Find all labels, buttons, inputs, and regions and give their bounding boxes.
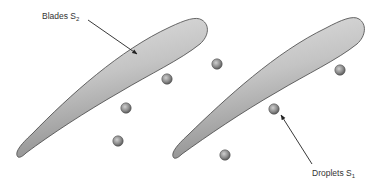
droplets-label-subscript: 1 bbox=[352, 173, 355, 179]
droplets-label-text: Droplets S bbox=[312, 168, 352, 178]
droplet bbox=[121, 103, 131, 113]
droplet bbox=[212, 59, 222, 69]
droplets-arrow bbox=[281, 115, 312, 164]
droplet bbox=[335, 65, 345, 75]
blades-arrow bbox=[88, 20, 137, 54]
diagram-canvas bbox=[0, 0, 382, 185]
droplets-label: Droplets S1 bbox=[312, 168, 355, 179]
blades-label-subscript: 2 bbox=[76, 16, 79, 22]
blades-label-text: Blades S bbox=[42, 11, 76, 21]
droplet bbox=[162, 74, 172, 84]
blades-label: Blades S2 bbox=[42, 11, 79, 22]
droplet bbox=[113, 136, 123, 146]
droplet bbox=[220, 150, 230, 160]
blade-1 bbox=[17, 18, 208, 157]
droplet bbox=[269, 104, 279, 114]
